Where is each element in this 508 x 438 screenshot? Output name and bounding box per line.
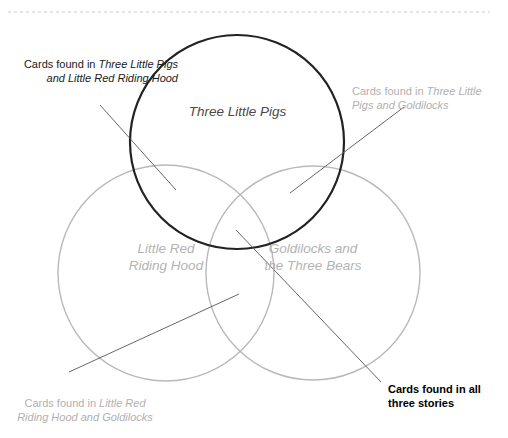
set-label-goldilocks-and-the-three-bears: Goldilocks and the Three Bears [237, 240, 389, 275]
callout-all-three-stories: Cards found in all three stories [388, 382, 498, 410]
set-label-three-little-pigs: Three Little Pigs [165, 103, 310, 120]
callout-pigs-and-riding-hood-lead: Cards found in [24, 58, 99, 70]
venn-diagram-canvas: Three Little Pigs Little Red Riding Hood… [0, 0, 508, 438]
callout-pigs-and-riding-hood: Cards found in Three Little Pigs and Lit… [18, 43, 178, 85]
callout-riding-hood-and-goldilocks-lead: Cards found in [24, 397, 99, 409]
set-label-little-red-riding-hood: Little Red Riding Hood [90, 240, 242, 275]
callout-pigs-and-goldilocks-lead: Cards found in [352, 85, 427, 97]
leader-line-riding-hood-and-goldilocks [69, 294, 239, 372]
callout-riding-hood-and-goldilocks: Cards found in Little Red Riding Hood an… [10, 382, 160, 424]
callout-pigs-and-goldilocks: Cards found in Three Little Pigs and Gol… [352, 70, 502, 112]
